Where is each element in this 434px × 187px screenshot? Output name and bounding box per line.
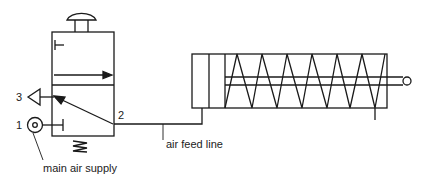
port-2-label: 2 <box>118 110 124 121</box>
pneumatic-diagram <box>0 0 434 187</box>
exhaust-port-icon <box>28 89 54 105</box>
air-supply-icon <box>28 118 44 161</box>
main-air-supply-label: main air supply <box>43 163 117 174</box>
push-button-icon <box>67 13 96 32</box>
cylinder-spring-icon <box>225 54 385 108</box>
air-feed-line-label: air feed line <box>166 139 223 150</box>
port-1-label: 1 <box>16 120 22 131</box>
port-3-label: 3 <box>16 92 22 103</box>
valve-body <box>43 32 114 136</box>
valve-spring-icon <box>73 141 87 152</box>
piston-rod <box>225 77 411 120</box>
air-feed-line <box>114 108 202 140</box>
